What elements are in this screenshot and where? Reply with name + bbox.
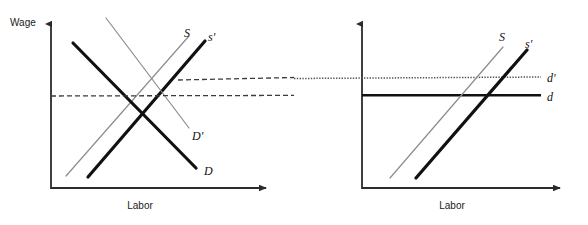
- economics-figure: Wage Labor S s' D D' Labor S s' d' d: [0, 0, 588, 225]
- left-label-demand-D-prime: D': [191, 129, 204, 143]
- x-axis-label-labor-left: Labor: [127, 200, 153, 211]
- right-label-supply-s-prime: s': [525, 37, 533, 51]
- right-curve-supply-s-prime: [416, 50, 527, 178]
- left-label-supply-S: S: [184, 26, 190, 40]
- left-label-supply-s-prime: s': [208, 30, 216, 44]
- right-label-supply-S: S: [499, 30, 505, 44]
- left-curve-demand-D: [73, 43, 196, 168]
- right-label-demand-d-prime: d': [547, 71, 556, 85]
- right-curve-supply-S: [390, 47, 503, 178]
- left-panel: Wage Labor S s' D D': [10, 17, 294, 211]
- left-curve-supply-s-prime: [88, 41, 205, 177]
- left-label-demand-D: D: [203, 164, 213, 178]
- x-axis-label-labor-right: Labor: [439, 200, 465, 211]
- left-curve-supply-S: [66, 36, 189, 176]
- y-axis-label-wage: Wage: [10, 17, 36, 28]
- right-panel: Labor S s' d' d: [294, 24, 560, 211]
- supply-demand-diagram: Wage Labor S s' D D' Labor S s' d' d: [0, 0, 588, 225]
- upper-wage-reference-line-left: [178, 78, 294, 81]
- lower-wage-reference-line-left: [51, 95, 294, 96]
- right-label-demand-d: d: [547, 90, 554, 104]
